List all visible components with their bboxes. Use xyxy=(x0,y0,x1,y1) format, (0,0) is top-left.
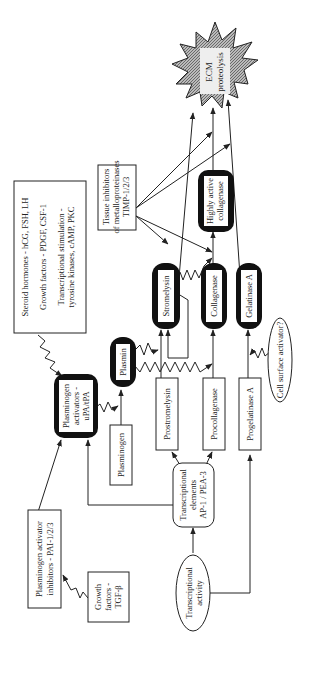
svg-text:tyrosine kinases, cAMP, PKC: tyrosine kinases, cAMP, PKC xyxy=(66,206,76,307)
svg-text:Gelatinase A: Gelatinase A xyxy=(244,273,254,318)
svg-text:of metalloproteinases: of metalloproteinases xyxy=(111,161,121,234)
svg-text:Cell surface activator?: Cell surface activator? xyxy=(275,322,285,399)
svg-text:collagenase: collagenase xyxy=(215,181,225,221)
svg-text:Tissue inhibitors: Tissue inhibitors xyxy=(101,169,111,226)
pai-node: Plasminogen activator inhibitors - PAI-1… xyxy=(28,510,61,608)
svg-text:Steroid hormones - hCG, FSH, L: Steroid hormones - hCG, FSH, LH xyxy=(20,198,30,317)
svg-text:activators -: activators - xyxy=(71,387,81,425)
svg-text:Transcriptional: Transcriptional xyxy=(184,567,194,619)
svg-text:uPA/tPA: uPA/tPA xyxy=(81,391,91,421)
svg-text:Plasminogen: Plasminogen xyxy=(61,383,71,428)
svg-text:Plasminogen activator: Plasminogen activator xyxy=(34,521,44,597)
procollagenase-node: Procollagenase xyxy=(203,378,225,450)
plasminogen-activators-node: Plasminogen activators - uPA/tPA xyxy=(54,374,98,438)
plasminogen-node: Plasminogen xyxy=(110,425,132,485)
stimuli-node: Steroid hormones - hCG, FSH, LH Growth f… xyxy=(14,181,86,333)
svg-text:TGF-β: TGF-β xyxy=(113,585,123,608)
tgf-beta-node: Growth factors - TGF-β xyxy=(88,572,129,622)
svg-text:Transcriptional: Transcriptional xyxy=(178,469,188,521)
svg-text:Collagenase: Collagenase xyxy=(209,275,219,317)
svg-text:TIMP-1/2/3: TIMP-1/2/3 xyxy=(121,177,131,218)
progelatinase-a-node: Progelatinase A xyxy=(239,378,261,450)
svg-text:Growth factors - PDGF, CSF-1: Growth factors - PDGF, CSF-1 xyxy=(38,204,48,310)
svg-text:Plasminogen: Plasminogen xyxy=(116,432,126,477)
svg-text:inhibitors - PAI-1/2/3: inhibitors - PAI-1/2/3 xyxy=(45,523,55,596)
timp-node: Tissue inhibitors of metalloproteinases … xyxy=(98,161,136,234)
cell-surface-activator-node: Cell surface activator? xyxy=(268,318,292,402)
svg-text:elements: elements xyxy=(188,480,198,510)
transcriptional-elements-node: Transcriptional elements AP-1 / PEA-3 xyxy=(173,463,214,527)
svg-text:AP-1 / PEA-3: AP-1 / PEA-3 xyxy=(198,471,208,519)
svg-text:Prostromelysin: Prostromelysin xyxy=(162,388,172,440)
ecm-proteolysis-node: ECM proteolysis xyxy=(172,22,258,108)
svg-text:factors -: factors - xyxy=(103,583,113,611)
transcriptional-activity-node: Transcriptional activity xyxy=(176,555,210,631)
svg-text:Plasmin: Plasmin xyxy=(118,348,128,376)
ecm-proteolysis-diagram: ECM proteolysis Highly active collagenas… xyxy=(0,0,310,674)
gelatinase-a-node: Gelatinase A xyxy=(236,263,262,329)
prostromelysin-node: Prostromelysin xyxy=(156,378,178,450)
svg-text:Progelatinase A: Progelatinase A xyxy=(245,386,255,440)
svg-text:Growth: Growth xyxy=(93,583,103,610)
svg-text:activity: activity xyxy=(194,580,204,606)
svg-text:Highly active: Highly active xyxy=(205,178,215,224)
svg-text:Transcriptional stimulation -: Transcriptional stimulation - xyxy=(56,208,66,305)
highly-active-collagenase-node: Highly active collagenase xyxy=(198,170,234,232)
collagenase-node: Collagenase xyxy=(201,263,227,329)
svg-text:Stromelysin: Stromelysin xyxy=(161,275,171,317)
stromelysin-node: Stromelysin xyxy=(152,263,180,329)
ecm-label-2: proteolysis xyxy=(215,52,225,92)
plasmin-node: Plasmin xyxy=(110,337,136,387)
ecm-label-1: ECM xyxy=(204,62,214,82)
svg-text:Procollagenase: Procollagenase xyxy=(209,388,219,440)
